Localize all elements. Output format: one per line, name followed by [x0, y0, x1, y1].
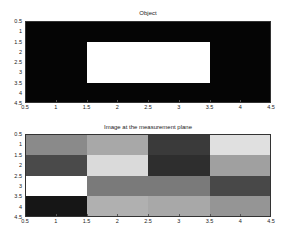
- y-tick-label: 1.5: [6, 152, 22, 158]
- x-tick-mark: [87, 100, 88, 102]
- x-tick-label: 4: [232, 104, 248, 110]
- heatmap-cell: [148, 21, 211, 43]
- x-tick-mark: [179, 100, 180, 102]
- y-tick-label: 2: [6, 162, 22, 168]
- y-tick-label: 2.5: [6, 59, 22, 65]
- heatmap-cell: [210, 62, 272, 84]
- heatmap-cell: [210, 155, 272, 177]
- x-tick-label: 3: [171, 218, 187, 224]
- heatmap-cell: [87, 176, 150, 198]
- y-tick-label: 2: [6, 49, 22, 55]
- heatmap-cell: [210, 134, 272, 156]
- x-tick-mark: [56, 214, 57, 216]
- y-tick-label: 4: [6, 204, 22, 210]
- x-tick-mark: [240, 100, 241, 102]
- x-tick-label: 4.5: [263, 104, 279, 110]
- y-tick-label: 1: [6, 141, 22, 147]
- x-tick-label: 1: [48, 218, 64, 224]
- heatmap-cell: [25, 155, 88, 177]
- object-plot-title: Object: [139, 10, 156, 16]
- x-tick-mark: [210, 214, 211, 216]
- y-tick-label: 3: [6, 183, 22, 189]
- heatmap-cell: [87, 155, 150, 177]
- x-tick-mark: [87, 214, 88, 216]
- x-tick-label: 4.5: [263, 218, 279, 224]
- heatmap-cell: [148, 155, 211, 177]
- heatmap-cell: [148, 42, 211, 64]
- x-tick-label: 2: [109, 218, 125, 224]
- heatmap-cell: [210, 21, 272, 43]
- x-tick-label: 3.5: [202, 218, 218, 224]
- y-tick-label: 0.5: [6, 18, 22, 24]
- y-tick-label: 1: [6, 28, 22, 34]
- x-tick-label: 3.5: [202, 104, 218, 110]
- x-tick-label: 1: [48, 104, 64, 110]
- x-tick-label: 1.5: [79, 218, 95, 224]
- heatmap-cell: [210, 42, 272, 64]
- x-tick-label: 0.5: [17, 104, 33, 110]
- x-tick-mark: [117, 214, 118, 216]
- x-tick-mark: [148, 100, 149, 102]
- heatmap-cell: [25, 62, 88, 84]
- heatmap-cell: [87, 62, 150, 84]
- heatmap-cell: [87, 21, 150, 43]
- x-tick-label: 4: [232, 218, 248, 224]
- y-tick-label: 3.5: [6, 193, 22, 199]
- y-tick-label: 3: [6, 69, 22, 75]
- measurement-plane-plot-axes: [25, 134, 271, 217]
- y-tick-label: 4: [6, 90, 22, 96]
- heatmap-cell: [87, 134, 150, 156]
- x-tick-label: 2.5: [140, 218, 156, 224]
- x-tick-label: 0.5: [17, 218, 33, 224]
- heatmap-cell: [87, 42, 150, 64]
- y-tick-label: 1.5: [6, 39, 22, 45]
- x-tick-mark: [56, 100, 57, 102]
- heatmap-cell: [25, 176, 88, 198]
- x-tick-mark: [210, 100, 211, 102]
- x-tick-label: 2: [109, 104, 125, 110]
- x-tick-mark: [117, 100, 118, 102]
- x-tick-label: 2.5: [140, 104, 156, 110]
- y-tick-label: 3.5: [6, 80, 22, 86]
- y-tick-label: 0.5: [6, 131, 22, 137]
- heatmap-cell: [25, 42, 88, 64]
- x-tick-mark: [179, 214, 180, 216]
- measurement-plane-plot-title: Image at the measurement plane: [104, 124, 192, 130]
- x-tick-mark: [148, 214, 149, 216]
- heatmap-cell: [148, 176, 211, 198]
- x-tick-label: 3: [171, 104, 187, 110]
- heatmap-cell: [25, 134, 88, 156]
- heatmap-cell: [148, 62, 211, 84]
- heatmap-cell: [210, 176, 272, 198]
- x-tick-mark: [240, 214, 241, 216]
- heatmap-cell: [25, 21, 88, 43]
- heatmap-cell: [148, 134, 211, 156]
- y-tick-label: 2.5: [6, 173, 22, 179]
- x-tick-label: 1.5: [79, 104, 95, 110]
- object-plot-axes: [25, 21, 271, 103]
